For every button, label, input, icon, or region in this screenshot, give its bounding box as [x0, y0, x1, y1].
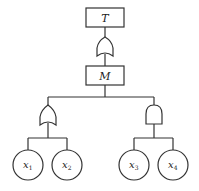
or-gate-icon — [40, 105, 56, 125]
or-gate-icon — [97, 37, 113, 56]
fault-tree-diagram: T M x1 x2 x3 x4 — [0, 0, 199, 191]
and-gate-icon — [146, 105, 162, 124]
intermediate-event-label: M — [98, 70, 111, 83]
